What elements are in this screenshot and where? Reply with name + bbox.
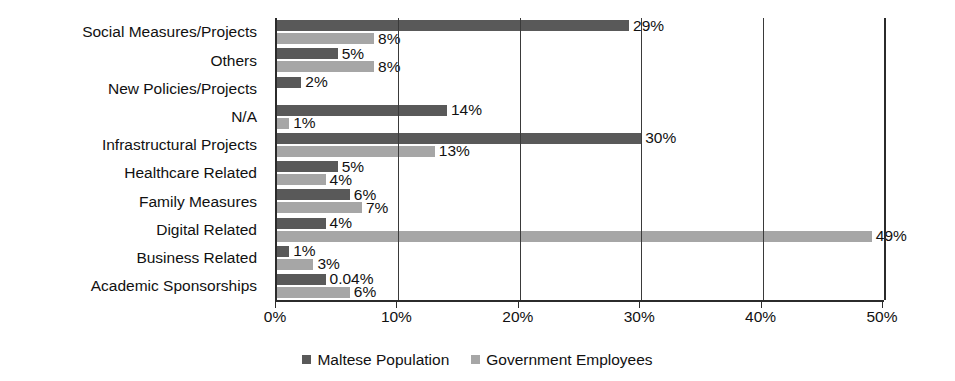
bar-line: 29%	[277, 20, 884, 31]
bar-government-employees	[277, 33, 374, 44]
category-label: Others	[0, 46, 266, 74]
bar-line: 4%	[277, 218, 884, 229]
legend-item[interactable]: Maltese Population	[302, 352, 449, 368]
bar-line: 6%	[277, 287, 884, 298]
plot-area: 29%8%5%8%2%14%1%30%13%5%4%6%7%4%49%1%3%0…	[275, 18, 884, 302]
bar-line	[277, 90, 884, 101]
category-label: Digital Related	[0, 215, 266, 243]
x-axis: 0%10%20%30%40%50%	[275, 302, 886, 328]
bar-government-employees	[277, 287, 350, 298]
bar-group: 30%13%	[277, 131, 884, 159]
category-label: Social Measures/Projects	[0, 18, 266, 46]
bar-value-label: 5%	[338, 46, 364, 62]
bar-value-label: 1%	[289, 115, 315, 131]
gridline-10	[398, 18, 399, 300]
category-axis-labels: Social Measures/ProjectsOthersNew Polici…	[0, 18, 266, 300]
bar-line: 5%	[277, 48, 884, 59]
bar-government-employees	[277, 202, 362, 213]
legend-label: Government Employees	[486, 352, 652, 368]
bar-government-employees	[277, 231, 872, 242]
bar-value-label: 8%	[374, 59, 400, 75]
bar-maltese-population	[277, 274, 326, 285]
category-label: Academic Sponsorships	[0, 272, 266, 300]
x-tick-label: 50%	[866, 309, 897, 325]
bar-value-label: 4%	[326, 172, 352, 188]
bar-line: 1%	[277, 118, 884, 129]
bar-value-label: 2%	[301, 74, 327, 90]
bar-line: 1%	[277, 246, 884, 257]
bar-line: 4%	[277, 174, 884, 185]
bar-maltese-population	[277, 20, 629, 31]
bar-group: 14%1%	[277, 103, 884, 131]
bar-group: 0.04%6%	[277, 272, 884, 300]
category-label: N/A	[0, 103, 266, 131]
gridline-50	[884, 18, 886, 300]
category-label: Healthcare Related	[0, 159, 266, 187]
legend-label: Maltese Population	[317, 352, 449, 368]
bar-group: 2%	[277, 74, 884, 102]
bar-government-employees	[277, 61, 374, 72]
bar-value-label: 6%	[350, 285, 376, 301]
bar-maltese-population	[277, 218, 326, 229]
bar-value-label: 30%	[641, 131, 676, 147]
bar-line: 8%	[277, 33, 884, 44]
category-label: Infrastructural Projects	[0, 131, 266, 159]
bar-value-label: 4%	[326, 215, 352, 231]
gridline-40	[763, 18, 764, 300]
category-label: Family Measures	[0, 187, 266, 215]
bar-line: 30%	[277, 133, 884, 144]
light-square-icon	[471, 355, 480, 364]
bar-group: 29%8%	[277, 18, 884, 46]
bar-line: 7%	[277, 202, 884, 213]
horizontal-bar-chart: Social Measures/ProjectsOthersNew Polici…	[0, 0, 955, 381]
bar-value-label: 8%	[374, 31, 400, 47]
category-label: Business Related	[0, 244, 266, 272]
bar-value-label: 1%	[289, 243, 315, 259]
bar-value-label: 14%	[447, 102, 482, 118]
bar-value-label: 3%	[313, 256, 339, 272]
bar-value-label: 7%	[362, 200, 388, 216]
bar-group: 5%8%	[277, 46, 884, 74]
bar-line: 49%	[277, 231, 884, 242]
bar-maltese-population	[277, 246, 289, 257]
chart-legend: Maltese PopulationGovernment Employees	[0, 352, 955, 368]
bar-value-label: 49%	[872, 228, 907, 244]
bar-line: 8%	[277, 61, 884, 72]
dark-square-icon	[302, 355, 311, 364]
bar-government-employees	[277, 174, 326, 185]
x-tick-label: 30%	[624, 309, 655, 325]
bar-maltese-population	[277, 48, 338, 59]
bar-value-label: 13%	[435, 144, 470, 160]
bar-government-employees	[277, 118, 289, 129]
x-tick-label: 10%	[381, 309, 412, 325]
bar-line: 3%	[277, 259, 884, 270]
x-tick-label: 20%	[502, 309, 533, 325]
gridline-20	[520, 18, 521, 300]
bar-group: 5%4%	[277, 159, 884, 187]
bar-line: 5%	[277, 161, 884, 172]
bar-line: 13%	[277, 146, 884, 157]
bar-maltese-population	[277, 77, 301, 88]
gridline-30	[641, 18, 642, 300]
bar-group: 4%49%	[277, 215, 884, 243]
bar-government-employees	[277, 259, 313, 270]
legend-item[interactable]: Government Employees	[471, 352, 652, 368]
bar-rows: 29%8%5%8%2%14%1%30%13%5%4%6%7%4%49%1%3%0…	[277, 18, 884, 300]
bar-value-label: 29%	[629, 18, 664, 34]
bar-maltese-population	[277, 189, 350, 200]
x-tick-label: 0%	[264, 309, 286, 325]
x-tick-label: 40%	[745, 309, 776, 325]
bar-line: 14%	[277, 105, 884, 116]
bar-government-employees	[277, 146, 435, 157]
bar-group: 6%7%	[277, 187, 884, 215]
bar-line: 2%	[277, 77, 884, 88]
category-label: New Policies/Projects	[0, 74, 266, 102]
bar-group: 1%3%	[277, 244, 884, 272]
